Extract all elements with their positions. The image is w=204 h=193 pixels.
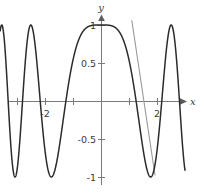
x-axis-arrow-icon <box>180 98 187 105</box>
plot-canvas: 1 0.5 -0.5 -1 -2 2 x y <box>0 0 204 193</box>
x-label-neg-2: -2 <box>40 108 49 119</box>
figure-container: 1 0.5 -0.5 -1 -2 2 x y <box>0 0 204 193</box>
y-label-0point5: 0.5 <box>81 58 96 69</box>
x-label-2: 2 <box>154 108 160 119</box>
axis-names-group: x y <box>97 2 196 107</box>
y-label-1: 1 <box>90 20 96 31</box>
y-label-neg-0point5: -0.5 <box>77 134 96 145</box>
y-axis-arrow-icon <box>98 15 105 22</box>
y-axis-label: y <box>97 2 104 13</box>
x-axis-label: x <box>190 96 196 107</box>
y-label-neg-1: -1 <box>87 172 96 183</box>
